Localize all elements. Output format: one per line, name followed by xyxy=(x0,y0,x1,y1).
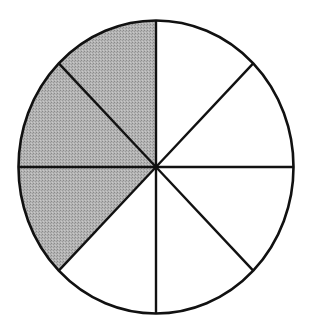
fraction-circle-diagram xyxy=(0,0,318,326)
sector-dividers xyxy=(19,21,294,314)
